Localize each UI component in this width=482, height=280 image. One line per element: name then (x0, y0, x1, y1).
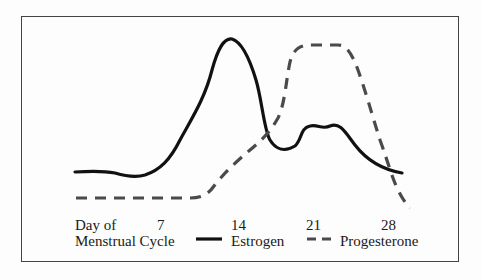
x-tick-14: 14 (231, 217, 246, 234)
legend-estrogen-label: Estrogen (231, 233, 284, 250)
legend-progesterone-label: Progesterone (340, 233, 418, 250)
estrogen-line (75, 39, 402, 177)
x-tick-21: 21 (306, 217, 321, 234)
x-axis-label-line1: Day of (75, 217, 116, 234)
x-axis-label-line2: Menstrual Cycle (75, 233, 175, 250)
progesterone-line (76, 45, 410, 208)
x-tick-7: 7 (157, 217, 165, 234)
x-tick-28: 28 (381, 217, 396, 234)
